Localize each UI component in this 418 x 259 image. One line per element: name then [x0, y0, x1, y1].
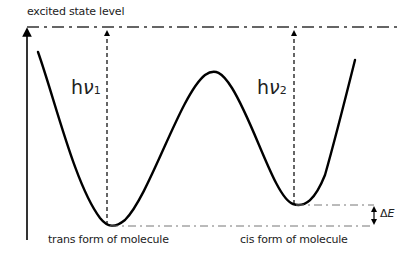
nu-symbol: ν [83, 76, 94, 98]
subscript-2: 2 [280, 84, 287, 97]
hv1-label: hν1 [71, 76, 101, 98]
cis-form-label: cis form of molecule [240, 233, 348, 246]
planck-h: h [257, 76, 269, 98]
nu-symbol: ν [269, 76, 280, 98]
trans-form-label: trans form of molecule [48, 233, 169, 246]
delta-symbol: Δ [380, 207, 388, 220]
hv2-label: hν2 [257, 76, 287, 98]
excited-state-label: excited state level [27, 5, 124, 18]
energy-diagram [0, 0, 418, 259]
subscript-1: 1 [94, 84, 101, 97]
delta-e-label: ΔE [380, 207, 394, 220]
energy-symbol: E [388, 207, 395, 220]
planck-h: h [71, 76, 83, 98]
